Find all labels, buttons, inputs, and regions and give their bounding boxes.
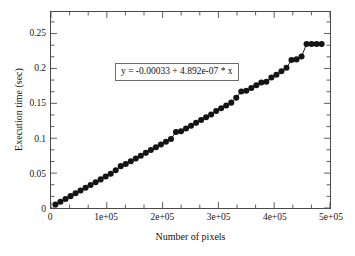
x-tick-label: 0 <box>48 212 53 223</box>
x-tick-label: 4e+05 <box>263 212 287 223</box>
chart-figure: 00.050.10.150.20.25 01e+052e+053e+054e+0… <box>0 0 355 256</box>
y-tick-label: 0.1 <box>34 134 46 144</box>
data-point <box>263 79 269 85</box>
data-point <box>273 72 279 78</box>
x-tick-label: 2e+05 <box>150 212 174 223</box>
data-point <box>299 54 305 60</box>
x-axis-title: Number of pixels <box>50 231 331 242</box>
y-tick-label: 0.2 <box>34 63 46 73</box>
data-point <box>208 111 214 117</box>
data-point <box>113 167 119 173</box>
x-tick-label: 3e+05 <box>207 212 231 223</box>
data-point <box>233 95 239 101</box>
y-tick-label: 0.15 <box>29 98 46 108</box>
x-tick-label: 1e+05 <box>94 212 118 223</box>
data-point <box>168 136 174 142</box>
data-point <box>283 65 289 71</box>
data-point <box>319 41 325 47</box>
data-point <box>108 171 114 177</box>
data-point <box>278 68 284 74</box>
x-tick-label: 5e+05 <box>319 212 343 223</box>
x-axis-tick-labels: 01e+052e+053e+054e+055e+05 <box>0 212 355 226</box>
data-point <box>228 100 234 106</box>
y-tick-label: 0.25 <box>29 28 46 38</box>
y-axis-title: Execution time (sec) <box>13 35 24 185</box>
y-tick-label: 0.05 <box>29 169 46 179</box>
fit-equation-annotation: y = -0.00033 + 4.892e-07 * x <box>115 63 239 81</box>
data-layer <box>51 12 330 208</box>
plot-area <box>50 11 331 209</box>
